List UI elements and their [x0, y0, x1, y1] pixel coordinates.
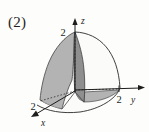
y-axis-label: y — [130, 95, 136, 105]
y-tick-label-2: 2 — [116, 94, 121, 105]
x-tick-label-2: 2 — [30, 101, 35, 112]
z-tick-label-2: 2 — [60, 27, 65, 38]
figure-container: (2) 2 z 2 y 2 x — [0, 0, 149, 132]
y-axis-arrowhead — [138, 85, 145, 90]
item-number-label: (2) — [8, 14, 26, 31]
x-axis-label: x — [40, 118, 46, 128]
z-axis-label: z — [80, 16, 85, 26]
z-axis-arrowhead — [72, 18, 77, 25]
solid-of-revolution-diagram: (2) 2 z 2 y 2 x — [0, 0, 149, 132]
